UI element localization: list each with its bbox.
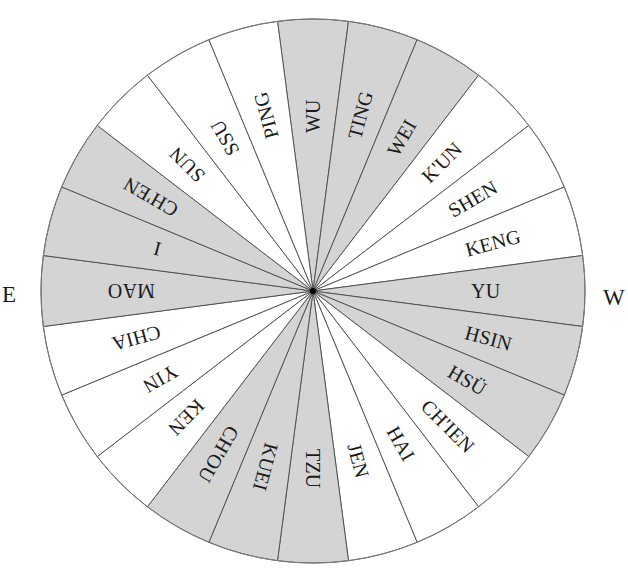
segment-label: TZU xyxy=(302,449,324,489)
center-hub-dot xyxy=(310,288,316,294)
cardinal-west-label: W xyxy=(603,286,625,309)
segment-label: MAO xyxy=(108,280,155,302)
segment-label: WU xyxy=(302,99,324,133)
compass-rose-diagram: WUTINGWEIK'UNSHENKENGYUHSINHSÜCH'IENHAIJ… xyxy=(0,0,628,581)
cardinal-east-label: E xyxy=(2,283,16,306)
segment-label: YU xyxy=(471,280,501,302)
